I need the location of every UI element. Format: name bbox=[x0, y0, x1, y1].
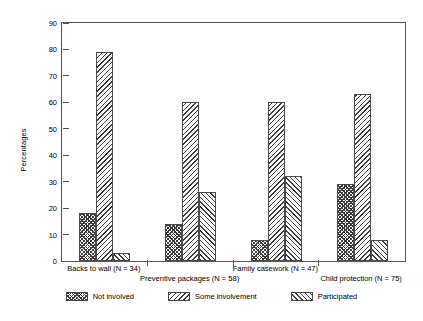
x-axis-tick bbox=[318, 260, 319, 266]
y-axis-tick bbox=[63, 261, 69, 262]
bar-4-2 bbox=[354, 94, 371, 261]
bar-chart: Percentages 0102030405060708090 Backs to… bbox=[0, 0, 423, 321]
bar-4-3 bbox=[371, 240, 388, 261]
x-axis-category-label: Family casework (N = 47) bbox=[233, 264, 318, 273]
legend-swatch-icon bbox=[66, 292, 88, 301]
legend-item-label: Some involvement bbox=[195, 292, 257, 301]
y-axis-tick-label: 40 bbox=[49, 151, 57, 160]
y-axis-tick bbox=[63, 181, 69, 182]
x-axis-tick bbox=[147, 260, 148, 266]
y-axis-tick bbox=[63, 155, 69, 156]
x-axis-category-label: Child protection (N = 75) bbox=[320, 274, 402, 283]
bar-2-1 bbox=[165, 224, 182, 261]
legend-item-label: Participated bbox=[318, 292, 358, 301]
y-axis-tick-label: 90 bbox=[49, 19, 57, 28]
legend-item-2[interactable]: Some involvement bbox=[168, 292, 257, 301]
legend-item-label: Not involved bbox=[93, 292, 134, 301]
y-axis-title-label: Percentages bbox=[19, 90, 28, 210]
x-axis-category-label: Preventive packages (N = 58) bbox=[140, 274, 239, 283]
y-axis-tick bbox=[63, 208, 69, 209]
y-axis-tick-label: 50 bbox=[49, 124, 57, 133]
bar-4-1 bbox=[337, 184, 354, 261]
y-axis-tick bbox=[63, 102, 69, 103]
y-axis-tick-label: 30 bbox=[49, 177, 57, 186]
bar-3-2 bbox=[268, 102, 285, 261]
plot-area: 0102030405060708090 bbox=[61, 22, 406, 262]
bar-1-1 bbox=[79, 213, 96, 261]
bar-3-1 bbox=[251, 240, 268, 261]
legend-item-1[interactable]: Not involved bbox=[66, 292, 134, 301]
bars-container bbox=[62, 23, 405, 261]
y-axis-title: Percentages bbox=[5, 0, 14, 100]
y-axis-tick-label: 0 bbox=[53, 257, 57, 266]
bar-2-2 bbox=[182, 102, 199, 261]
legend-swatch-icon bbox=[168, 292, 190, 301]
y-axis-tick bbox=[63, 234, 69, 235]
legend-swatch-icon bbox=[291, 292, 313, 301]
chart-legend: Not involvedSome involvementParticipated bbox=[0, 292, 423, 301]
y-axis-tick bbox=[63, 128, 69, 129]
y-axis-tick-label: 10 bbox=[49, 230, 57, 239]
bar-1-3 bbox=[113, 253, 130, 261]
bar-3-3 bbox=[285, 176, 302, 261]
x-axis-category-label: Backs to wall (N = 34) bbox=[67, 264, 140, 273]
bar-2-3 bbox=[199, 192, 216, 261]
y-axis-tick-label: 20 bbox=[49, 204, 57, 213]
y-axis-tick bbox=[63, 75, 69, 76]
y-axis-tick-label: 80 bbox=[49, 45, 57, 54]
y-axis-tick bbox=[63, 49, 69, 50]
y-axis-tick bbox=[63, 23, 69, 24]
legend-item-3[interactable]: Participated bbox=[291, 292, 358, 301]
bar-1-2 bbox=[96, 52, 113, 261]
y-axis-tick-label: 70 bbox=[49, 71, 57, 80]
y-axis-tick-label: 60 bbox=[49, 98, 57, 107]
